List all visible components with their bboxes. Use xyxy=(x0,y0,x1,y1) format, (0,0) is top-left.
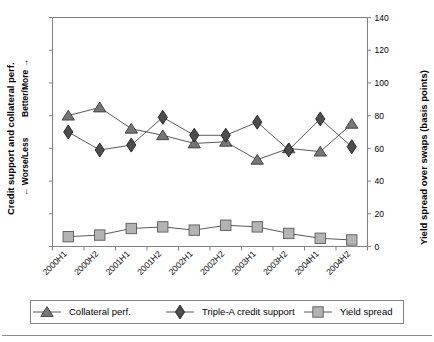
right-tick-label: 40 xyxy=(375,176,385,186)
square-marker-icon xyxy=(252,222,262,232)
x-axis-category-label: 2001H2 xyxy=(135,249,163,277)
series-line xyxy=(68,225,352,240)
chart-figure: 020406080100120140 2000H12000H22001H1200… xyxy=(0,0,434,342)
square-marker-icon xyxy=(347,235,357,245)
diamond-marker-icon xyxy=(253,115,262,129)
right-tick-label: 20 xyxy=(375,209,385,219)
diamond-marker-icon xyxy=(158,110,167,124)
square-marker-icon xyxy=(284,228,294,238)
right-tick-label: 0 xyxy=(375,242,380,252)
square-marker-icon xyxy=(63,231,73,241)
triangle-marker-icon xyxy=(346,118,358,128)
right-tick-label: 60 xyxy=(375,144,385,154)
x-axis-category-label: 2004H2 xyxy=(324,249,352,277)
legend-label: Yield spread xyxy=(340,306,392,317)
left-axis-low-label: ← Worse/Less xyxy=(20,137,30,196)
x-axis-category-label: 2003H1 xyxy=(230,249,258,277)
x-axis-category-label: 2004H1 xyxy=(293,249,321,277)
right-tick-label: 80 xyxy=(375,111,385,121)
plot-frame xyxy=(53,18,368,247)
diamond-marker-icon xyxy=(284,143,293,157)
series-line xyxy=(68,117,352,150)
square-marker-icon xyxy=(315,233,325,243)
chart-legend: Collateral perf.Triple-A credit supportY… xyxy=(31,301,404,324)
x-axis-labels: 2000H12000H22001H12001H22002H12002H22003… xyxy=(41,249,353,277)
left-axis-title: Credit support and collateral perf. xyxy=(5,62,16,215)
square-marker-icon xyxy=(126,223,136,233)
series-3 xyxy=(63,220,357,245)
diamond-marker-icon xyxy=(64,125,73,139)
diamond-marker-icon xyxy=(221,128,230,142)
x-axis-category-label: 2001H1 xyxy=(104,249,132,277)
x-axis-category-label: 2003H2 xyxy=(261,249,289,277)
triangle-marker-icon xyxy=(62,110,74,120)
right-axis-ticks: 020406080100120140 xyxy=(368,13,389,252)
right-axis-title: Yield spread over swaps (basis points) xyxy=(418,70,429,245)
triangle-marker-icon xyxy=(125,123,137,133)
square-marker-icon xyxy=(313,307,323,317)
x-axis-category-label: 2000H2 xyxy=(72,249,100,277)
legend-label: Triple-A credit support xyxy=(202,306,295,317)
diamond-marker-icon xyxy=(95,143,104,157)
square-marker-icon xyxy=(158,222,168,232)
chart-canvas: 020406080100120140 2000H12000H22001H1200… xyxy=(0,0,434,342)
diamond-marker-icon xyxy=(347,140,356,154)
series-2 xyxy=(64,110,357,157)
right-tick-label: 100 xyxy=(375,78,389,88)
series-line xyxy=(68,107,352,159)
square-marker-icon xyxy=(189,225,199,235)
x-axis-ticks xyxy=(53,247,368,251)
left-axis-ticks xyxy=(49,18,53,247)
triangle-marker-icon xyxy=(94,102,106,112)
square-marker-icon xyxy=(221,220,231,230)
right-tick-label: 120 xyxy=(375,45,389,55)
series-1 xyxy=(62,102,358,164)
left-axis-high-label: Better/More → xyxy=(20,59,30,117)
legend-label: Collateral perf. xyxy=(69,306,131,317)
series-group xyxy=(62,102,358,245)
x-axis-category-label: 2002H1 xyxy=(167,249,195,277)
square-marker-icon xyxy=(95,230,105,240)
diamond-marker-icon xyxy=(190,128,199,142)
x-axis-category-label: 2000H1 xyxy=(41,249,69,277)
diamond-marker-icon xyxy=(127,138,136,152)
left-axis-title-group: Credit support and collateral perf. ← Wo… xyxy=(5,59,30,215)
x-axis-category-label: 2002H2 xyxy=(198,249,226,277)
right-tick-label: 140 xyxy=(375,13,389,23)
triangle-marker-icon xyxy=(251,154,263,164)
diamond-marker-icon xyxy=(316,112,325,126)
